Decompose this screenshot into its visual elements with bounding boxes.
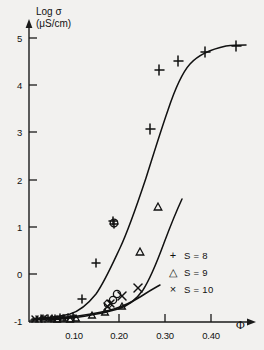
cross-icon: × [166, 284, 180, 295]
x-tick-label-030: 0.30 [156, 330, 174, 341]
triangle-icon: △ [166, 267, 180, 278]
y-tick-label-3: 3 [17, 127, 22, 138]
y-axis-arrowhead [26, 19, 33, 28]
legend-label-s8: S = 8 [184, 250, 208, 261]
legend-label-s9: S = 9 [184, 267, 208, 278]
plus-icon: + [166, 250, 180, 261]
y-axis-title-line1: Log σ [36, 6, 71, 18]
x-tick-label-020: 0.20 [110, 330, 128, 341]
x-axis [29, 319, 256, 326]
y-tick-marks [29, 38, 37, 321]
y-tick-label-neg1: -1 [14, 316, 22, 327]
figure-container: 5 4 3 2 1 0 -1 0.10 0.20 0.30 0.40 [0, 0, 264, 350]
legend-item-s9: △ S = 9 [166, 264, 214, 281]
y-tick-label-2: 2 [17, 175, 22, 186]
x-axis-title: Φ [236, 318, 245, 333]
y-axis-title-line2: (μS/cm) [36, 18, 71, 30]
y-axis [26, 19, 33, 322]
y-tick-label-1: 1 [17, 222, 22, 233]
x-tick-label-010: 0.10 [65, 330, 83, 341]
legend-label-s10: S = 10 [184, 284, 214, 295]
legend-item-s8: + S = 8 [166, 247, 214, 264]
y-tick-label-4: 4 [17, 80, 22, 91]
y-tick-label-0: 0 [17, 269, 22, 280]
legend: + S = 8 △ S = 9 × S = 10 [166, 247, 214, 298]
plot-area: 5 4 3 2 1 0 -1 0.10 0.20 0.30 0.40 [0, 0, 264, 350]
y-tick-label-5: 5 [17, 33, 22, 44]
x-tick-label-040: 0.40 [202, 330, 220, 341]
y-axis-title: Log σ (μS/cm) [36, 6, 71, 30]
curve-s8 [32, 45, 246, 319]
x-axis-arrowhead [247, 319, 256, 326]
legend-item-s10: × S = 10 [166, 281, 214, 298]
